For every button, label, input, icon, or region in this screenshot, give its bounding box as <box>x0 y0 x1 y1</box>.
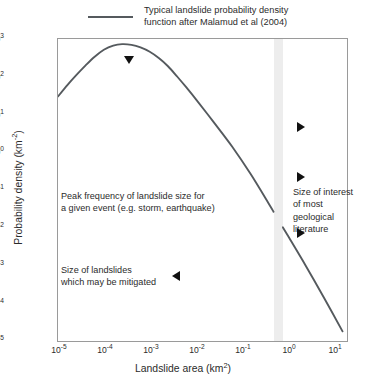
legend-label-line1: Typical landslide probability density <box>144 5 288 15</box>
curve-path-segment-2 <box>283 227 343 331</box>
y-tick-neg5: 10-5 <box>0 336 4 346</box>
x-tick-neg3: 10-3 <box>134 345 168 355</box>
x-tick-neg4: 10-4 <box>88 345 122 355</box>
triangle-right-icon <box>297 228 305 238</box>
y-axis-label: Probability density (km-2) <box>13 78 24 298</box>
triangle-left-icon <box>172 271 180 281</box>
y-tick-2: 102 <box>0 72 4 82</box>
legend-label: Typical landslide probability density fu… <box>144 5 362 28</box>
y-tick-3: 103 <box>0 34 4 44</box>
triangle-right-icon <box>297 172 305 182</box>
y-tick-neg3: 10-3 <box>0 261 4 271</box>
annotation-mitigated-size: Size of landslides which may be mitigate… <box>61 264 211 289</box>
y-tick-0: 100 <box>0 147 4 157</box>
curve-path <box>58 44 274 212</box>
y-tick-neg2: 10-2 <box>0 223 4 233</box>
annotation-peak-frequency: Peak frequency of landslide size for a g… <box>61 190 261 215</box>
triangle-right-icon <box>297 122 305 132</box>
y-tick-neg1: 10-1 <box>0 185 4 195</box>
y-tick-neg4: 10-4 <box>0 299 4 309</box>
y-tick-1: 101 <box>0 110 4 120</box>
x-tick-0: 100 <box>272 345 306 355</box>
x-tick-neg5: 10-5 <box>42 345 76 355</box>
landslide-probability-density-chart: Typical landslide probability density fu… <box>0 0 366 386</box>
x-tick-neg1: 10-1 <box>226 345 260 355</box>
legend-label-line2: function after Malamud et al (2004) <box>144 17 287 27</box>
x-tick-1: 101 <box>318 345 352 355</box>
triangle-down-icon <box>124 56 134 64</box>
x-axis-label: Landslide area (km2) <box>0 363 366 374</box>
chart-legend: Typical landslide probability density fu… <box>88 5 362 33</box>
legend-line-swatch <box>88 16 133 18</box>
x-tick-neg2: 10-2 <box>180 345 214 355</box>
